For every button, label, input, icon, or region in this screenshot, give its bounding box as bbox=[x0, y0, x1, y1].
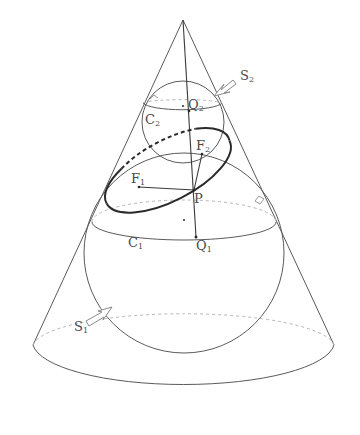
label-p: P bbox=[194, 192, 203, 205]
upper-sphere-center-dot bbox=[182, 105, 184, 107]
label-f2: F2 bbox=[196, 139, 210, 154]
cone-left-generator bbox=[33, 20, 183, 345]
segment-f1-p bbox=[139, 187, 194, 190]
ellipse-section-front bbox=[107, 141, 243, 229]
right-angle-mark-lower bbox=[255, 196, 264, 204]
circle-c2-back bbox=[143, 100, 222, 103]
s2-arrow-icon bbox=[214, 80, 236, 96]
label-c2: C2 bbox=[145, 113, 160, 128]
ellipse-section-back-dashed bbox=[118, 124, 196, 168]
cone-base-front bbox=[33, 345, 334, 385]
label-s2: S2 bbox=[240, 69, 254, 84]
label-f1: F1 bbox=[131, 172, 145, 187]
circle-c1-front bbox=[92, 222, 276, 240]
segment-f2-p bbox=[194, 154, 202, 190]
label-q1: Q1 bbox=[196, 239, 212, 254]
lower-sphere-s1 bbox=[84, 153, 284, 353]
label-s1: S1 bbox=[74, 320, 88, 335]
label-q2: Q2 bbox=[188, 98, 204, 113]
lower-sphere-center-dot bbox=[183, 219, 185, 221]
label-c1: C1 bbox=[128, 236, 143, 251]
dandelin-spheres-diagram bbox=[0, 0, 360, 435]
s1-arrow-icon bbox=[86, 307, 112, 326]
